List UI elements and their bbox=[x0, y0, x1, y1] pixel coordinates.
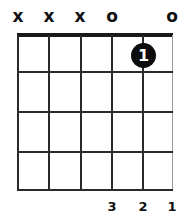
fret-line-1 bbox=[17, 71, 173, 73]
nut bbox=[17, 33, 173, 37]
string-3-muted-marker: x bbox=[72, 8, 88, 24]
finger-label-string-6: 1 bbox=[165, 199, 179, 214]
string-line-4 bbox=[111, 35, 113, 190]
finger-label-string-4: 3 bbox=[105, 199, 119, 214]
string-6-open-marker: o bbox=[164, 8, 180, 24]
fret-line-4 bbox=[17, 189, 173, 191]
fret-line-3 bbox=[17, 151, 173, 153]
fret-line-2 bbox=[17, 111, 173, 113]
string-line-3 bbox=[80, 35, 82, 190]
string-line-1 bbox=[17, 35, 19, 190]
string-line-2 bbox=[48, 35, 50, 190]
string-line-6 bbox=[172, 35, 173, 190]
string-1-muted-marker: x bbox=[10, 8, 26, 24]
finger-dot: 1 bbox=[131, 43, 156, 68]
finger-label-string-5: 2 bbox=[136, 199, 150, 214]
string-2-muted-marker: x bbox=[41, 8, 57, 24]
string-4-open-marker: o bbox=[104, 8, 120, 24]
